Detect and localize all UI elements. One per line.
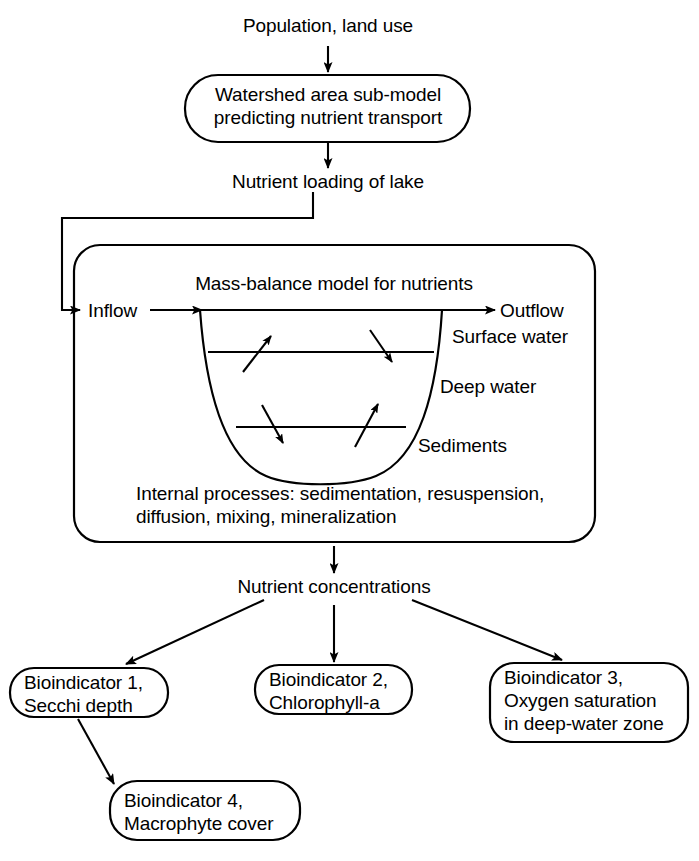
internal-processes-label: Internal processes: sedimentation, resus…: [136, 482, 544, 528]
bioindicator-4-line1: Bioindicator 4,: [124, 789, 273, 812]
bioindicator-3-line2: Oxygen saturation: [504, 689, 664, 712]
flux-arrow-up-right-icon: [355, 404, 378, 447]
bioindicator-1-label: Bioindicator 1, Secchi depth: [24, 671, 143, 717]
lake-basin-outline: [200, 310, 442, 484]
sediments-label: Sediments: [418, 434, 507, 457]
internal-processes-line2: diffusion, mixing, mineralization: [136, 505, 544, 528]
deep-water-label: Deep water: [440, 375, 536, 398]
flux-arrow-down-right-icon: [370, 330, 392, 362]
edge-bio1-to-bio4: [78, 719, 114, 784]
bioindicator-2-line1: Bioindicator 2,: [269, 668, 388, 691]
flux-arrow-down-left-icon: [262, 405, 283, 443]
watershed-model-line1: Watershed area sub-model: [214, 83, 442, 106]
surface-water-label: Surface water: [452, 325, 568, 348]
population-land-use-label: Population, land use: [243, 14, 413, 37]
bioindicator-4-line2: Macrophyte cover: [124, 812, 273, 835]
outflow-label: Outflow: [500, 299, 564, 322]
mass-balance-model-title: Mass-balance model for nutrients: [195, 272, 473, 295]
bioindicator-2-label: Bioindicator 2, Chlorophyll-a: [269, 668, 388, 714]
bioindicator-3-line1: Bioindicator 3,: [504, 666, 664, 689]
nutrient-loading-label: Nutrient loading of lake: [232, 170, 424, 193]
bioindicator-4-label: Bioindicator 4, Macrophyte cover: [124, 789, 273, 835]
edge-concentrations-to-bio3: [412, 600, 562, 660]
bioindicator-3-line3: in deep-water zone: [504, 712, 664, 735]
internal-processes-line1: Internal processes: sedimentation, resus…: [136, 482, 544, 505]
edge-concentrations-to-bio1: [126, 600, 264, 664]
bioindicator-1-line2: Secchi depth: [24, 694, 143, 717]
watershed-model-line2: predicting nutrient transport: [214, 106, 442, 129]
inflow-label: Inflow: [88, 299, 137, 322]
watershed-model-label: Watershed area sub-model predicting nutr…: [214, 83, 442, 129]
diagram-canvas: Population, land use Watershed area sub-…: [0, 0, 699, 861]
bioindicator-2-line2: Chlorophyll-a: [269, 691, 388, 714]
flux-arrow-up-left-icon: [243, 336, 271, 372]
nutrient-concentrations-label: Nutrient concentrations: [237, 575, 430, 598]
bioindicator-3-label: Bioindicator 3, Oxygen saturation in dee…: [504, 666, 664, 736]
bioindicator-1-line1: Bioindicator 1,: [24, 671, 143, 694]
